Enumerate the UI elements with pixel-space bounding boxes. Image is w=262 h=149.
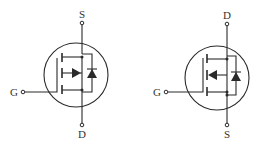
gate-terminal bbox=[21, 90, 25, 94]
body-diode-icon bbox=[87, 69, 97, 78]
gate-terminal bbox=[164, 90, 168, 94]
gate-label: G bbox=[10, 86, 18, 98]
body-diode-icon bbox=[231, 72, 241, 81]
mosfet-symbol-left: S D G bbox=[10, 8, 108, 140]
bottom-terminal bbox=[80, 123, 84, 127]
top-terminal bbox=[80, 21, 84, 25]
gate-label: G bbox=[153, 86, 161, 98]
mosfet-diagram: S D G D bbox=[0, 0, 262, 149]
junction-dot bbox=[81, 89, 84, 92]
gate-lead bbox=[25, 58, 57, 92]
bottom-label: D bbox=[78, 128, 86, 140]
junction-dot bbox=[226, 58, 229, 61]
mosfet-symbol-right: D S G bbox=[153, 9, 249, 140]
junction-dot bbox=[226, 91, 229, 94]
top-label: D bbox=[223, 9, 231, 21]
channel-arrow-icon bbox=[72, 68, 81, 78]
junction-dot bbox=[81, 56, 84, 59]
junction-dot bbox=[226, 94, 229, 97]
top-label: S bbox=[79, 8, 85, 20]
bottom-label: S bbox=[224, 128, 230, 140]
top-terminal bbox=[225, 22, 229, 26]
channel-arrow-icon bbox=[208, 70, 217, 80]
bottom-terminal bbox=[225, 123, 229, 127]
